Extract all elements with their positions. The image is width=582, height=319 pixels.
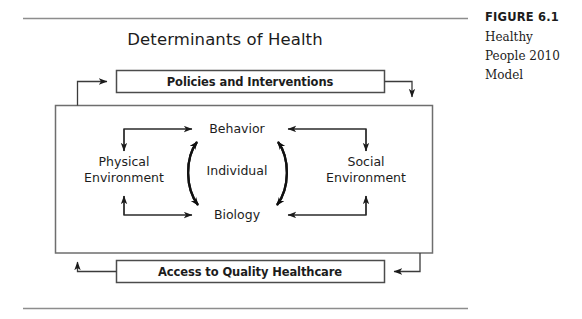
node-behavior-label: Behavior (209, 121, 265, 136)
policies-box-label: Policies and Interventions (167, 75, 334, 89)
connector-access-to-outer (78, 262, 117, 272)
healthy-people-2010-model-diagram: Determinants of Health Policies and Inte… (0, 0, 582, 319)
node-individual-label: Individual (207, 163, 268, 178)
figure-caption-line3: Model (485, 68, 523, 82)
node-social-environment-line2: Environment (326, 170, 406, 185)
figure-container: Determinants of Health Policies and Inte… (0, 0, 582, 319)
figure-caption-line1: Healthy (485, 30, 533, 44)
node-physical-environment-line1: Physical (99, 154, 150, 169)
node-social-environment-line1: Social (347, 154, 384, 169)
arrow-social-to-biology (288, 196, 366, 215)
diagram-title: Determinants of Health (127, 30, 323, 49)
arc-behavior-to-biology (188, 142, 198, 205)
arrow-physical-to-biology (124, 196, 192, 215)
figure-caption-line2: People 2010 (485, 49, 560, 63)
node-biology-label: Biology (214, 207, 261, 222)
arrow-social-to-behavior (288, 129, 366, 151)
access-box-label: Access to Quality Healthcare (158, 265, 342, 279)
connector-outer-to-policies (78, 82, 108, 106)
connector-policies-to-outer (385, 82, 413, 98)
connector-outer-to-access (394, 253, 420, 272)
node-physical-environment-line2: Environment (84, 170, 164, 185)
arc-behavior-to-biology-right (277, 142, 287, 205)
figure-number-label: FIGURE 6.1 (485, 10, 559, 24)
arrow-physical-to-behavior (124, 129, 192, 151)
